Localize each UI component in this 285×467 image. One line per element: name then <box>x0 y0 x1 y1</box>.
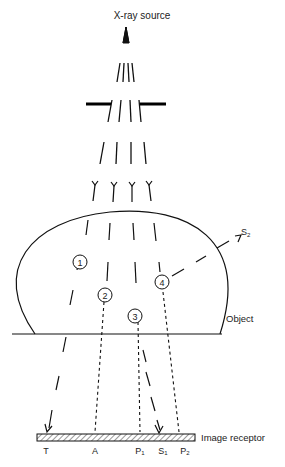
point-s1-label: S1 <box>158 446 168 456</box>
ray-4-dotted <box>163 292 179 432</box>
svg-text:1: 1 <box>77 258 82 268</box>
point-a-label: A <box>92 446 98 456</box>
object-label: Object <box>226 313 254 324</box>
x-ray-diagram: X-ray source <box>0 0 285 467</box>
scatter-s2-label: S2 <box>241 227 251 238</box>
beam-arrows <box>92 181 152 202</box>
primary-beam-segments <box>100 63 146 164</box>
svg-text:2: 2 <box>102 291 107 301</box>
circle-label-4: 4 <box>155 275 169 289</box>
ray-2 <box>107 223 110 281</box>
image-receptor <box>37 434 195 441</box>
circle-label-3: 3 <box>128 309 142 323</box>
ray-1 <box>45 220 88 432</box>
object-outline <box>16 211 228 334</box>
point-p1-label: P1 <box>135 446 145 456</box>
xray-source-label: X-ray source <box>114 10 171 21</box>
point-p2-label: P2 <box>180 446 190 456</box>
circle-label-1: 1 <box>73 255 87 269</box>
image-receptor-label: Image receptor <box>201 432 265 443</box>
ray-3 <box>133 223 163 433</box>
ray-2-dotted <box>95 302 104 432</box>
svg-text:3: 3 <box>132 312 137 322</box>
svg-text:4: 4 <box>159 278 164 288</box>
xray-source-icon <box>123 27 129 43</box>
circle-label-2: 2 <box>98 288 112 302</box>
ray-4 <box>154 223 241 276</box>
ray-3-dotted <box>138 322 140 432</box>
point-t-label: T <box>43 446 49 456</box>
